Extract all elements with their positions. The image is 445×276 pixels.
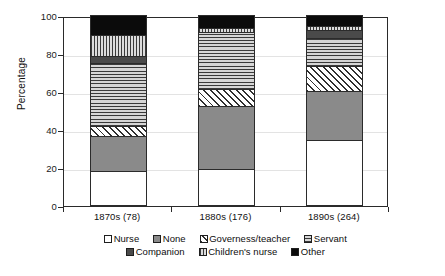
bar-segment-servant[interactable]: [90, 63, 147, 127]
y-axis-tick-label: 100: [27, 12, 57, 22]
legend-label: Companion: [136, 247, 185, 257]
bar-column: [198, 18, 255, 206]
bar-segment-other[interactable]: [306, 15, 363, 27]
swatch-childrens-nurse-icon: [199, 248, 207, 256]
bar-segment-children-s-nurse[interactable]: [90, 35, 147, 57]
legend-item-children-s-nurse[interactable]: Children's nurse: [199, 247, 278, 257]
bar-segment-governess-teacher[interactable]: [198, 89, 255, 107]
chart-legend: NurseNoneGoverness/teacherServantCompani…: [63, 232, 388, 258]
swatch-none-icon: [153, 235, 161, 243]
legend-label: Servant: [314, 234, 347, 244]
legend-label: Other: [301, 247, 325, 257]
x-axis-tick-label: 1870s (78): [67, 211, 167, 222]
y-axis-tick-label: 60: [27, 88, 57, 98]
bar-segment-nurse[interactable]: [306, 140, 363, 206]
x-tick-mark: [388, 207, 389, 212]
stacked-bar-chart: Percentage 020406080100 1870s (78)1880s …: [0, 0, 445, 276]
bar-segment-none[interactable]: [306, 91, 363, 141]
bar-column: [90, 18, 147, 206]
legend-item-governess-teacher[interactable]: Governess/teacher: [200, 234, 291, 244]
swatch-other-icon: [291, 248, 299, 256]
swatch-governess-icon: [200, 235, 208, 243]
stacked-bar[interactable]: [90, 18, 147, 206]
legend-label: Governess/teacher: [209, 234, 290, 244]
swatch-companion-icon: [126, 248, 134, 256]
swatch-servant-icon: [304, 235, 312, 243]
x-axis-tick-label: 1880s (176): [176, 211, 276, 222]
legend-row: CompanionChildren's nurseOther: [63, 245, 388, 258]
bar-segment-none[interactable]: [90, 136, 147, 172]
y-axis-ticks: 020406080100: [23, 17, 57, 207]
swatch-nurse-icon: [104, 235, 112, 243]
legend-item-servant[interactable]: Servant: [304, 234, 347, 244]
legend-label: None: [163, 234, 186, 244]
legend-item-none[interactable]: None: [153, 234, 185, 244]
bar-segment-other[interactable]: [90, 15, 147, 36]
legend-label: Nurse: [114, 234, 140, 244]
bar-segment-servant[interactable]: [306, 38, 363, 68]
y-axis-tick-label: 0: [27, 202, 57, 212]
x-axis-tick-label: 1890s (264): [284, 211, 384, 222]
plot-area: [63, 17, 388, 207]
x-tick-mark: [63, 207, 64, 212]
x-tick-mark: [280, 207, 281, 212]
y-axis-tick-label: 20: [27, 164, 57, 174]
x-tick-mark: [171, 207, 172, 212]
bar-segment-servant[interactable]: [198, 32, 255, 90]
y-axis-tick-label: 40: [27, 126, 57, 136]
bar-segment-nurse[interactable]: [90, 171, 147, 206]
stacked-bar[interactable]: [198, 18, 255, 206]
bar-segment-companion[interactable]: [90, 56, 147, 65]
legend-label: Children's nurse: [208, 247, 277, 257]
bar-segment-none[interactable]: [198, 106, 255, 170]
bar-segment-governess-teacher[interactable]: [306, 66, 363, 92]
legend-item-nurse[interactable]: Nurse: [104, 234, 139, 244]
bar-segment-nurse[interactable]: [198, 169, 255, 206]
bar-segment-other[interactable]: [198, 15, 255, 29]
legend-item-other[interactable]: Other: [291, 247, 325, 257]
y-axis-tick-label: 80: [27, 50, 57, 60]
bar-segment-companion[interactable]: [306, 30, 363, 39]
legend-item-companion[interactable]: Companion: [126, 247, 185, 257]
stacked-bar[interactable]: [306, 18, 363, 206]
bar-column: [306, 18, 363, 206]
bar-segment-governess-teacher[interactable]: [90, 126, 147, 137]
legend-row: NurseNoneGoverness/teacherServant: [63, 232, 388, 245]
